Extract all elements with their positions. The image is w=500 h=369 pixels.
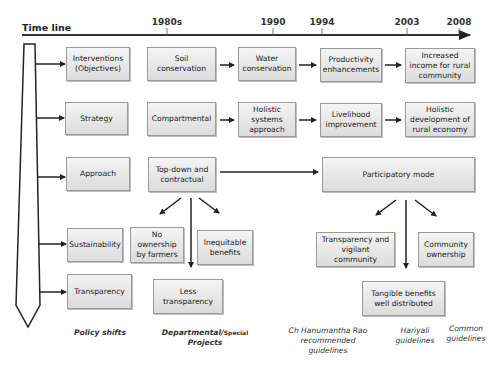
node-compartmental: Compartmental [147,102,216,136]
caption-common: Common guidelines [440,324,492,344]
year-2003: 2003 [394,17,419,27]
node-tangible-benefits: Tangible benefits well distributed [362,281,445,316]
caption-departmental-special: Special [224,329,248,336]
row-label-strategy: Strategy [65,102,128,135]
row-label-transparency: Transparency [67,274,132,309]
row-label-interventions: Interventions (Objectives) [66,47,130,81]
caption-departmental-projects: Projects [188,338,223,347]
node-vigilant-community: Transparency and vigilant community [316,232,395,267]
node-community-ownership: Community ownership [418,232,474,267]
caption-hariyali: Hariyali guidelines [390,326,440,346]
caption-departmental: Departmental/Special Projects [155,328,255,348]
node-water-conservation: Water conservation [238,47,296,81]
row-label-sustainability: Sustainability [67,228,123,262]
node-holistic-development: Holistic development of rural economy [405,102,475,137]
row-label-approach: Approach [66,157,130,191]
caption-departmental-main: Departmental/ [162,328,224,337]
year-1990: 1990 [260,17,285,27]
node-productivity: Productivity enhancements [320,48,382,82]
node-soil-conservation: Soil conservation [147,47,216,81]
timeline-label: Time line [22,22,71,33]
node-no-ownership: No ownership by farmers [130,227,184,263]
node-participatory: Participatory mode [322,157,475,192]
year-1994: 1994 [309,17,334,27]
node-holistic-systems: Holistic systems approach [238,102,296,137]
policy-shift-arrow [16,44,40,327]
year-1980s: 1980s [152,17,182,27]
timeline-axis [22,28,470,35]
node-livelihood: Livelihood improvement [320,103,382,137]
node-increased-income: Increased income for rural community [405,48,475,83]
node-top-down: Top-down and contractual [148,157,216,192]
node-inequitable: Inequitable benefits [197,230,253,265]
node-less-transparency: Less transparency [153,279,223,314]
year-2008: 2008 [446,17,471,27]
caption-hanumantha: Ch Hanumantha Rao recommended guidelines [285,326,371,356]
caption-policy-shifts: Policy shifts [70,328,130,338]
